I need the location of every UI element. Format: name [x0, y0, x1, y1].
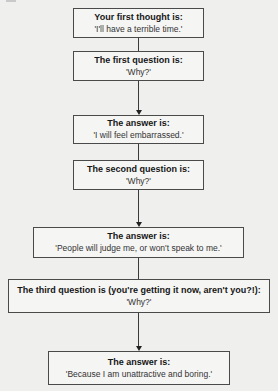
node-third-question: The third question is (you're getting it…	[8, 279, 270, 313]
node-text: 'Why?'	[126, 176, 151, 187]
node-second-question: The second question is: 'Why?'	[73, 160, 204, 190]
connector-line	[138, 313, 139, 346]
node-text: 'Because I am unattractive and boring.'	[66, 369, 212, 380]
node-heading: The answer is:	[107, 231, 170, 242]
node-text: 'I'll have a terrible time.'	[94, 24, 182, 35]
connector-line	[138, 38, 139, 51]
node-heading: The second question is:	[87, 164, 190, 175]
node-heading: The third question is (you're getting it…	[17, 285, 260, 296]
connector-line	[138, 258, 139, 279]
node-heading: The answer is:	[107, 118, 170, 129]
node-text: 'People will judge me, or won't speak to…	[55, 243, 221, 254]
node-heading: The answer is:	[108, 357, 171, 368]
connector-line	[138, 190, 139, 222]
page-edge-mark	[6, 0, 16, 2]
node-heading: Your first thought is:	[94, 12, 182, 23]
node-second-answer: The answer is: 'People will judge me, or…	[33, 227, 244, 258]
connector-line	[138, 144, 139, 160]
node-first-question: The first question is: 'Why?'	[73, 51, 204, 81]
connector-line	[138, 81, 139, 110]
node-heading: The first question is:	[94, 55, 183, 66]
node-third-answer: The answer is: 'Because I am unattractiv…	[48, 351, 230, 385]
node-first-thought: Your first thought is: 'I'll have a terr…	[73, 8, 204, 38]
node-text: 'Why?'	[126, 67, 151, 78]
node-text: 'Why?'	[127, 297, 152, 308]
node-first-answer: The answer is: 'I will feel embarrassed.…	[73, 115, 204, 144]
node-text: 'I will feel embarrassed.'	[93, 130, 183, 141]
